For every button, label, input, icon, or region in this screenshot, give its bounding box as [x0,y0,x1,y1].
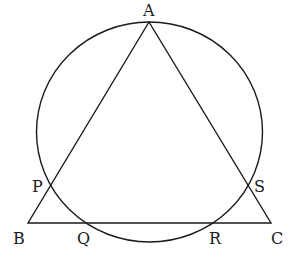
geometry-diagram: A B C P Q R S [0,0,305,265]
label-a: A [142,1,155,20]
label-s: S [254,177,265,196]
label-c: C [271,229,283,248]
triangle-abc [28,22,271,223]
label-r: R [209,229,222,248]
label-b: B [13,229,25,248]
label-q: Q [77,229,90,248]
label-p: P [32,177,43,196]
circle [37,22,263,242]
